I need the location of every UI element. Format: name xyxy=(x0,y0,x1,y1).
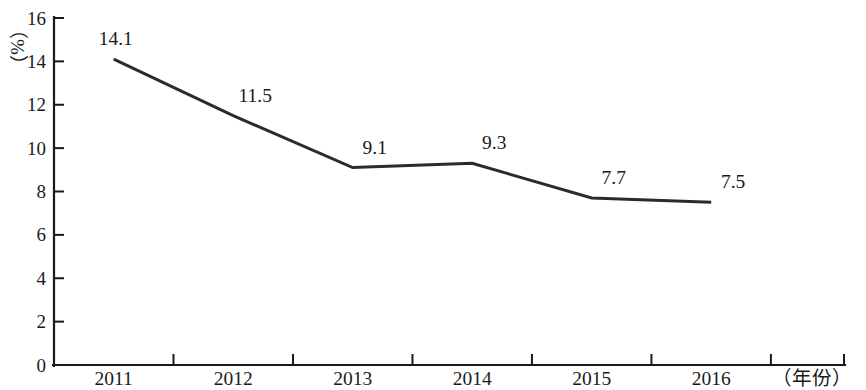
point-label-2012: 11.5 xyxy=(239,85,272,106)
point-label-2015: 7.7 xyxy=(602,167,627,188)
y-axis-unit-text: （%） xyxy=(8,20,27,74)
point-label-2014: 9.3 xyxy=(482,132,506,153)
y-tick-label-6: 6 xyxy=(37,224,47,245)
point-label-2016: 7.5 xyxy=(721,171,745,192)
point-label-2013: 9.1 xyxy=(363,137,387,158)
y-axis: 0246810121416 xyxy=(27,8,64,376)
y-tick-label-2: 2 xyxy=(37,311,47,332)
line-chart-figure: 0246810121416 201120122013201420152016 1… xyxy=(0,0,866,390)
x-tick-label-2014: 2014 xyxy=(453,368,492,389)
y-tick-label-4: 4 xyxy=(37,268,47,289)
x-tick-label-2013: 2013 xyxy=(333,368,372,389)
y-tick-label-12: 12 xyxy=(27,94,46,115)
x-axis-title: （年份） xyxy=(772,368,852,389)
y-axis-unit-label: （%） xyxy=(2,16,32,78)
chart-canvas: 0246810121416 201120122013201420152016 1… xyxy=(0,0,866,390)
x-tick-label-2012: 2012 xyxy=(214,368,253,389)
x-tick-label-2015: 2015 xyxy=(572,368,611,389)
y-tick-label-0: 0 xyxy=(37,355,47,376)
x-axis: 201120122013201420152016 xyxy=(53,354,845,389)
data-point-labels: 14.111.59.19.37.77.5 xyxy=(99,28,746,192)
y-axis-ticks xyxy=(54,18,64,365)
y-tick-label-10: 10 xyxy=(27,138,46,159)
point-label-2011: 14.1 xyxy=(99,28,133,49)
x-tick-label-2016: 2016 xyxy=(692,368,731,389)
x-axis-ticks xyxy=(173,354,770,365)
y-tick-label-8: 8 xyxy=(37,181,47,202)
x-tick-label-2011: 2011 xyxy=(95,368,133,389)
x-axis-tick-labels: 201120122013201420152016 xyxy=(95,368,731,389)
